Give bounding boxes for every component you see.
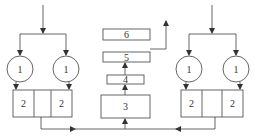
right-output-arrow <box>176 117 215 129</box>
left-box-cell-3-label: 2 <box>59 98 64 109</box>
left-box-cell-1-label: 2 <box>21 98 26 109</box>
box-5-output-arrow <box>150 21 166 49</box>
box-5-label: 5 <box>124 52 129 63</box>
left-circle-b-label: 1 <box>64 64 69 75</box>
box-6-label: 6 <box>124 29 129 40</box>
right-unit: 1 1 2 2 <box>176 5 249 129</box>
left-unit: 1 1 2 2 <box>7 5 79 129</box>
center-stack: 3 4 5 6 <box>101 21 166 118</box>
right-circle-b-label: 1 <box>234 64 239 75</box>
right-box-cell-3-label: 2 <box>230 98 235 109</box>
box-3-label: 3 <box>123 101 128 112</box>
process-diagram: 1 1 2 2 3 4 5 6 1 1 <box>0 0 257 137</box>
left-circle-a-label: 1 <box>18 64 23 75</box>
box-4-label: 4 <box>123 74 128 85</box>
right-box-cell-1-label: 2 <box>189 98 194 109</box>
right-circle-a-label: 1 <box>187 64 192 75</box>
left-output-arrow <box>41 117 75 129</box>
